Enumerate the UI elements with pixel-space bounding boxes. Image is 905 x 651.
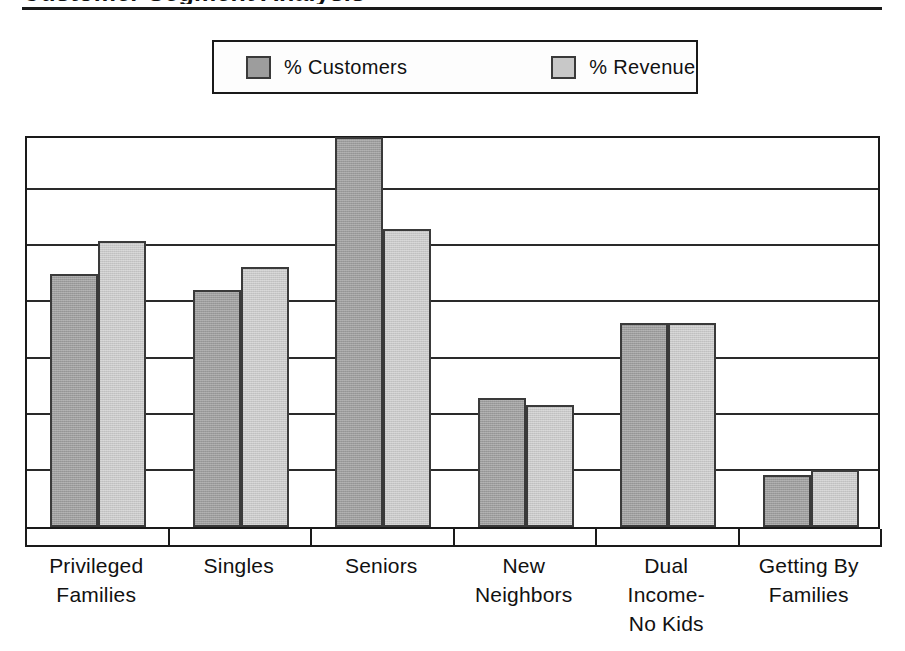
- bar-revenue[interactable]: [811, 470, 859, 527]
- x-axis-label-line: Families: [738, 580, 881, 609]
- x-axis-labels: PrivilegedFamiliesSinglesSeniorsNewNeigh…: [25, 551, 880, 647]
- legend-label-customers: % Customers: [284, 56, 407, 79]
- x-axis-label-line: Getting By: [738, 551, 881, 580]
- bar-revenue[interactable]: [668, 323, 716, 527]
- x-axis-label-line: Singles: [168, 551, 311, 580]
- legend-item-revenue: % Revenue: [551, 56, 695, 79]
- chart-legend: % Customers % Revenue: [212, 40, 698, 94]
- x-axis-tick: [738, 529, 740, 547]
- bar-group: [193, 138, 289, 527]
- legend-swatch-revenue: [551, 56, 576, 79]
- x-axis-label: Getting ByFamilies: [738, 551, 881, 609]
- x-axis-tick: [595, 529, 597, 547]
- bar-customers[interactable]: [478, 398, 526, 527]
- chart-bars: [27, 138, 878, 527]
- legend-label-revenue: % Revenue: [589, 56, 695, 79]
- x-axis-label-line: Income-: [595, 580, 738, 609]
- x-axis-label: NewNeighbors: [453, 551, 596, 609]
- x-axis-tick: [453, 529, 455, 547]
- bar-group: [335, 138, 431, 527]
- x-axis-label-line: Families: [25, 580, 168, 609]
- x-axis-label-line: Privileged: [25, 551, 168, 580]
- bar-customers[interactable]: [335, 137, 383, 527]
- x-axis-label-line: New: [453, 551, 596, 580]
- title-divider: [22, 7, 882, 10]
- bar-customers[interactable]: [763, 475, 811, 527]
- legend-swatch-customers: [246, 56, 271, 79]
- x-axis-label-line: Neighbors: [453, 580, 596, 609]
- bar-group: [620, 138, 716, 527]
- x-axis-label: DualIncome-No Kids: [595, 551, 738, 638]
- bar-group: [50, 138, 146, 527]
- bar-group: [763, 138, 859, 527]
- x-axis-label-line: Dual: [595, 551, 738, 580]
- chart-plot-area: [25, 136, 880, 529]
- bar-revenue[interactable]: [241, 267, 289, 528]
- legend-item-customers: % Customers: [246, 56, 407, 79]
- x-axis-tick: [25, 529, 27, 547]
- x-axis-label: Seniors: [310, 551, 453, 580]
- x-axis-label: Singles: [168, 551, 311, 580]
- x-axis-label-line: Seniors: [310, 551, 453, 580]
- bar-revenue[interactable]: [383, 229, 431, 527]
- bar-customers[interactable]: [50, 274, 98, 527]
- x-axis-tick: [310, 529, 312, 547]
- bar-group: [478, 138, 574, 527]
- x-axis-tick: [880, 529, 882, 547]
- page-title: Customer Segment Analysis: [22, 0, 882, 4]
- bar-revenue[interactable]: [98, 241, 146, 527]
- x-axis-tick: [168, 529, 170, 547]
- bar-customers[interactable]: [620, 323, 668, 527]
- bar-revenue[interactable]: [526, 405, 574, 527]
- bar-customers[interactable]: [193, 290, 241, 527]
- x-axis-label: PrivilegedFamilies: [25, 551, 168, 609]
- x-axis-label-line: No Kids: [595, 609, 738, 638]
